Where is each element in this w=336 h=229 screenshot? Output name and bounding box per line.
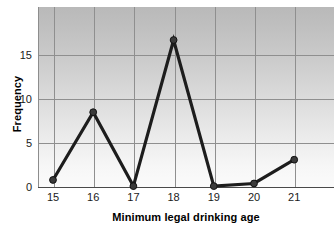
gridline-vertical [54,7,55,187]
y-tick-label: 10 [8,94,32,105]
x-tick-label: 16 [78,191,108,203]
y-tick-label: 0 [8,182,32,193]
x-axis-line [38,187,334,188]
gridline-vertical [215,7,216,187]
gridline-vertical [295,7,296,187]
y-tick-label: 5 [8,138,32,149]
x-axis-title: Minimum legal drinking age [38,211,334,223]
x-tick-label: 17 [118,191,148,203]
gridline-horizontal [39,143,334,144]
x-tick-label: 19 [199,191,229,203]
plot-area [38,7,334,187]
x-tick-label: 21 [279,191,309,203]
x-tick-label: 15 [38,191,68,203]
gridline-vertical [175,7,176,187]
x-tick-label: 18 [159,191,189,203]
gridline-horizontal [39,55,334,56]
gridline-vertical [134,7,135,187]
gridline-vertical [94,7,95,187]
frequency-line-chart: Frequency 051015 15161718192021 Minimum … [0,0,336,229]
x-tick-label: 20 [239,191,269,203]
gridline-vertical [255,7,256,187]
gridline-horizontal [39,99,334,100]
y-tick-label: 15 [8,50,32,61]
